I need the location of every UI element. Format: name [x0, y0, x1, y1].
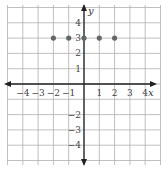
data-point — [81, 36, 86, 41]
data-point — [51, 36, 56, 41]
y-axis-down-arrow-icon — [81, 159, 87, 166]
y-tick-label: 4 — [75, 18, 81, 28]
data-point — [97, 36, 102, 41]
y-tick-label: 3 — [75, 33, 81, 43]
y-axis-label: y — [87, 5, 94, 16]
data-point — [112, 36, 117, 41]
x-tick-label: −3 — [31, 88, 45, 98]
x-tick-label: 2 — [112, 88, 118, 98]
x-tick-label: 1 — [96, 88, 102, 98]
data-point — [66, 36, 71, 41]
x-tick-label: 3 — [127, 88, 133, 98]
y-tick-label: −4 — [68, 140, 82, 150]
y-tick-label: 1 — [75, 64, 81, 74]
x-tick-label: −4 — [16, 88, 30, 98]
x-axis-label: x — [148, 87, 154, 98]
coordinate-plane: −4−3−2−112344321−2−3−4 x y — [0, 0, 161, 170]
y-tick-label: −2 — [68, 110, 81, 120]
y-tick-label: 2 — [75, 48, 81, 58]
y-tick-label: −3 — [68, 125, 82, 135]
x-tick-label: −2 — [47, 88, 60, 98]
x-tick-label: −1 — [62, 88, 75, 98]
